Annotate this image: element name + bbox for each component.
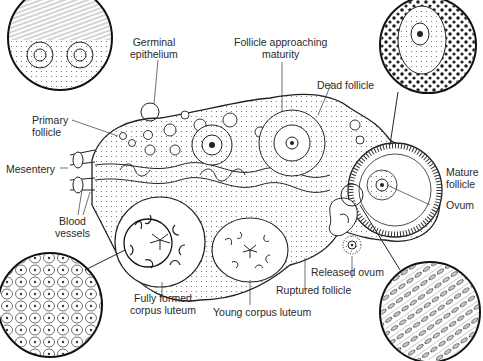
label-released-ovum: Released ovum xyxy=(311,266,384,278)
label-ruptured-follicle: Ruptured follicle xyxy=(276,284,351,296)
label-mature-follicle: Mature follicle xyxy=(446,166,479,190)
young-corpus-luteum xyxy=(212,218,288,282)
inset-corpus-luteum-cells xyxy=(0,250,110,360)
label-primary-follicle: Primary follicle xyxy=(32,114,68,138)
label-young-corpus-luteum: Young corpus luteum xyxy=(213,306,311,318)
inset-stroma-cells xyxy=(380,260,480,361)
mesentery xyxy=(70,150,95,193)
label-follicle-approaching-maturity: Follicle approaching maturity xyxy=(234,36,327,60)
label-dead-follicle: Dead follicle xyxy=(317,79,374,91)
label-ovum: Ovum xyxy=(446,199,474,211)
inset-follicle-cells xyxy=(378,0,478,100)
label-fully-formed-corpus-luteum: Fully formed corpus luteum xyxy=(130,292,196,316)
follicle-approaching-maturity xyxy=(192,125,232,165)
label-mesentery: Mesentery xyxy=(6,163,55,175)
fully-formed-corpus-luteum xyxy=(115,197,205,287)
dead-follicle xyxy=(259,110,325,176)
released-ovum xyxy=(343,236,361,254)
label-blood-vessels: Blood vessels xyxy=(55,215,90,239)
inset-germinal-epithelium xyxy=(0,0,120,100)
label-germinal-epithelium: Germinal epithelium xyxy=(130,36,178,60)
